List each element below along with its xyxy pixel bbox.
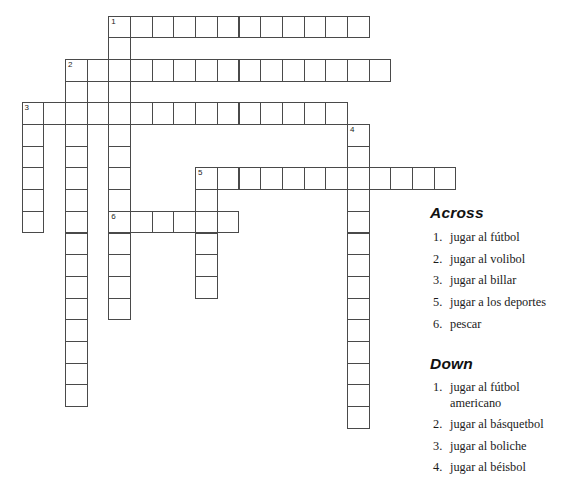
crossword-cell[interactable]	[347, 276, 370, 299]
crossword-cell[interactable]	[108, 81, 131, 104]
crossword-cell[interactable]	[282, 16, 305, 39]
crossword-cell[interactable]	[22, 211, 45, 234]
crossword-cell[interactable]	[65, 211, 88, 234]
crossword-cell[interactable]	[65, 146, 88, 169]
crossword-cell[interactable]	[173, 102, 196, 125]
crossword-cell[interactable]	[325, 102, 348, 125]
crossword-cell[interactable]	[108, 59, 131, 82]
crossword-cell[interactable]	[304, 59, 327, 82]
crossword-cell[interactable]	[239, 102, 262, 125]
crossword-cell[interactable]	[108, 37, 131, 60]
crossword-cell[interactable]	[217, 59, 240, 82]
crossword-cell[interactable]	[152, 59, 175, 82]
crossword-cell[interactable]	[195, 254, 218, 277]
crossword-cell[interactable]: 5	[195, 167, 218, 190]
crossword-cell[interactable]	[173, 211, 196, 234]
crossword-cell[interactable]	[325, 59, 348, 82]
crossword-cell[interactable]	[347, 233, 370, 256]
crossword-cell[interactable]	[65, 298, 88, 321]
crossword-cell[interactable]	[260, 102, 283, 125]
crossword-cell[interactable]	[347, 211, 370, 234]
crossword-cell[interactable]	[347, 146, 370, 169]
crossword-cell[interactable]	[217, 102, 240, 125]
crossword-cell[interactable]	[260, 59, 283, 82]
crossword-cell[interactable]	[130, 211, 153, 234]
crossword-cell[interactable]	[65, 384, 88, 407]
crossword-cell[interactable]: 3	[22, 102, 45, 125]
crossword-cell[interactable]	[65, 233, 88, 256]
crossword-cell[interactable]: 6	[108, 211, 131, 234]
crossword-cell[interactable]	[130, 59, 153, 82]
crossword-cell[interactable]	[217, 16, 240, 39]
crossword-cell[interactable]	[369, 59, 392, 82]
crossword-cell[interactable]	[325, 167, 348, 190]
crossword-cell[interactable]	[217, 211, 240, 234]
crossword-cell[interactable]	[130, 102, 153, 125]
crossword-cell[interactable]	[347, 298, 370, 321]
crossword-cell[interactable]	[152, 16, 175, 39]
crossword-cell[interactable]	[434, 167, 457, 190]
crossword-cell[interactable]	[347, 406, 370, 429]
crossword-cell[interactable]	[22, 189, 45, 212]
crossword-cell[interactable]	[195, 59, 218, 82]
crossword-cell[interactable]	[108, 276, 131, 299]
crossword-cell[interactable]	[65, 124, 88, 147]
crossword-cell[interactable]	[347, 167, 370, 190]
crossword-cell[interactable]	[217, 167, 240, 190]
crossword-cell[interactable]	[347, 59, 370, 82]
crossword-cell[interactable]	[347, 384, 370, 407]
crossword-cell[interactable]	[22, 146, 45, 169]
crossword-cell[interactable]	[195, 233, 218, 256]
crossword-cell[interactable]: 4	[347, 124, 370, 147]
crossword-cell[interactable]	[43, 102, 66, 125]
crossword-cell[interactable]	[347, 363, 370, 386]
crossword-cell[interactable]	[108, 167, 131, 190]
crossword-cell[interactable]	[130, 16, 153, 39]
crossword-cell[interactable]	[22, 124, 45, 147]
crossword-cell[interactable]	[65, 102, 88, 125]
crossword-cell[interactable]	[108, 233, 131, 256]
crossword-cell[interactable]	[390, 167, 413, 190]
crossword-cell[interactable]	[152, 211, 175, 234]
crossword-cell[interactable]	[108, 298, 131, 321]
crossword-cell[interactable]	[369, 167, 392, 190]
crossword-cell[interactable]: 1	[108, 16, 131, 39]
crossword-cell[interactable]	[304, 167, 327, 190]
crossword-cell[interactable]	[282, 102, 305, 125]
crossword-cell[interactable]	[108, 254, 131, 277]
crossword-cell[interactable]	[65, 363, 88, 386]
crossword-cell[interactable]	[412, 167, 435, 190]
crossword-cell[interactable]	[195, 276, 218, 299]
crossword-cell[interactable]	[65, 276, 88, 299]
crossword-cell[interactable]	[65, 254, 88, 277]
crossword-cell[interactable]	[173, 59, 196, 82]
crossword-cell[interactable]	[239, 16, 262, 39]
crossword-cell[interactable]	[65, 319, 88, 342]
crossword-cell[interactable]	[108, 189, 131, 212]
crossword-cell[interactable]	[282, 167, 305, 190]
crossword-cell[interactable]	[108, 124, 131, 147]
crossword-cell[interactable]	[260, 167, 283, 190]
crossword-cell[interactable]	[87, 59, 110, 82]
crossword-cell[interactable]	[347, 16, 370, 39]
crossword-cell[interactable]	[282, 59, 305, 82]
crossword-cell[interactable]	[260, 16, 283, 39]
crossword-cell[interactable]	[173, 16, 196, 39]
crossword-cell[interactable]	[347, 189, 370, 212]
crossword-cell[interactable]	[65, 341, 88, 364]
crossword-cell[interactable]	[239, 167, 262, 190]
crossword-cell[interactable]	[195, 211, 218, 234]
crossword-cell[interactable]	[347, 341, 370, 364]
crossword-cell[interactable]	[347, 254, 370, 277]
crossword-cell[interactable]	[195, 102, 218, 125]
crossword-cell[interactable]	[108, 146, 131, 169]
crossword-cell[interactable]	[195, 189, 218, 212]
crossword-cell[interactable]	[65, 167, 88, 190]
crossword-cell[interactable]	[304, 102, 327, 125]
crossword-cell[interactable]	[347, 319, 370, 342]
crossword-cell[interactable]: 2	[65, 59, 88, 82]
crossword-cell[interactable]	[65, 81, 88, 104]
crossword-cell[interactable]	[22, 167, 45, 190]
crossword-cell[interactable]	[65, 189, 88, 212]
crossword-cell[interactable]	[304, 16, 327, 39]
